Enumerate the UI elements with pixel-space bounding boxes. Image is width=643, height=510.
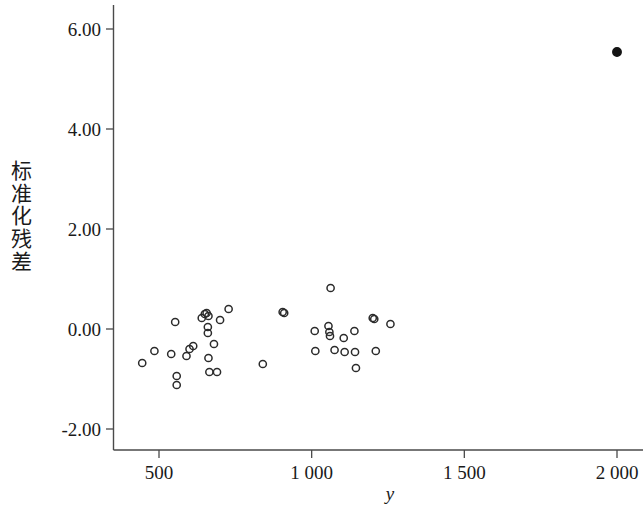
data-point	[173, 381, 180, 388]
data-point	[387, 320, 394, 327]
data-point	[151, 347, 158, 354]
x-tick-label: 500	[145, 462, 174, 483]
data-point	[172, 318, 179, 325]
data-point	[173, 372, 180, 379]
data-point	[213, 368, 220, 375]
data-point	[327, 284, 334, 291]
data-point	[351, 327, 358, 334]
y-tick-label: -2.00	[61, 419, 101, 440]
data-point-outlier	[613, 48, 621, 56]
data-point	[205, 354, 212, 361]
data-point	[225, 305, 232, 312]
x-tick-label: 1 500	[443, 462, 486, 483]
x-axis-title: y	[384, 483, 395, 504]
x-tick-label: 2 000	[596, 462, 639, 483]
y-tick-label: 4.00	[68, 119, 101, 140]
data-point	[210, 340, 217, 347]
y-axis-ticks: -2.000.002.004.006.00	[61, 19, 113, 440]
data-point	[352, 364, 359, 371]
data-point	[216, 316, 223, 323]
data-point	[372, 347, 379, 354]
data-point	[259, 360, 266, 367]
data-point	[351, 348, 358, 355]
data-point	[183, 352, 190, 359]
data-point	[311, 327, 318, 334]
data-point	[312, 347, 319, 354]
data-point	[168, 350, 175, 357]
x-axis-ticks: 5001 0001 5002 000	[145, 450, 639, 483]
data-points-layer	[139, 48, 622, 389]
data-point	[139, 359, 146, 366]
data-point	[341, 348, 348, 355]
y-tick-label: 2.00	[68, 219, 101, 240]
data-point	[206, 368, 213, 375]
x-tick-label: 1 000	[290, 462, 333, 483]
data-point	[340, 334, 347, 341]
plot-canvas: -2.000.002.004.006.00 5001 0001 5002 000…	[0, 0, 643, 510]
data-point	[331, 346, 338, 353]
y-tick-label: 6.00	[68, 19, 101, 40]
scatter-plot-figure: 标 准 化 残 差 -2.000.002.004.006.00 5001 000…	[0, 0, 643, 510]
y-tick-label: 0.00	[68, 319, 101, 340]
